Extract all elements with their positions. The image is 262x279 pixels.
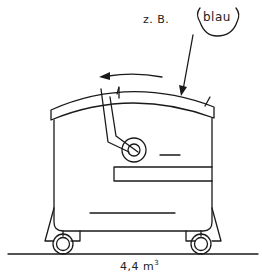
example-prefix-label: z. B. (143, 13, 169, 26)
color-callout-leader (183, 35, 193, 90)
volume-value: 4,4 (120, 260, 139, 273)
hinge-roller-inner (128, 144, 140, 156)
volume-label: 4,4 m3 (120, 259, 159, 273)
left-castor-wheel (53, 231, 73, 254)
volume-exponent: 3 (154, 259, 159, 267)
container-drawing (0, 0, 262, 279)
front-panel-recess (114, 167, 212, 181)
container-body (54, 118, 212, 231)
lid-color-label: blau (203, 10, 231, 24)
curved-lid (51, 92, 214, 120)
arrow-head-icon (99, 72, 110, 80)
right-castor-wheel (191, 231, 211, 254)
volume-unit: m (143, 260, 154, 273)
right-castor-bracket (186, 208, 221, 241)
leader-arrow-head-icon (179, 85, 187, 96)
lid-opening-arrow (108, 74, 162, 77)
